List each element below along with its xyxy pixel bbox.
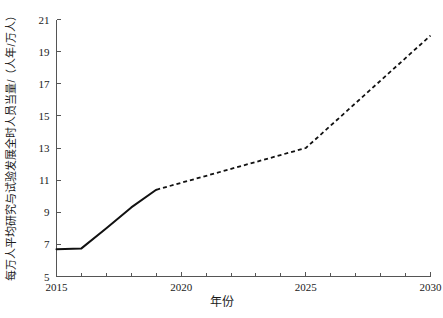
y-tick-label: 11 — [39, 174, 50, 186]
x-tick-label: 2025 — [295, 281, 318, 293]
y-tick-label: 19 — [39, 46, 51, 58]
x-tick-label: 2015 — [46, 281, 69, 293]
x-axis-title: 年份 — [0, 292, 443, 309]
x-axis-ticks: 2015202020252030 — [46, 272, 443, 293]
series-historical-line — [57, 190, 157, 249]
x-tick-label: 2030 — [420, 281, 443, 293]
y-tick-label: 21 — [39, 14, 50, 26]
chart-container: 每万人平均研究与试验发展全时人员当量/（人年/万人） 5791113151719… — [0, 0, 443, 318]
x-tick-label: 2020 — [170, 281, 193, 293]
y-axis-ticks: 579111315171921 — [39, 14, 61, 283]
y-tick-label: 13 — [39, 142, 51, 154]
y-tick-label: 9 — [44, 206, 50, 218]
y-tick-label: 7 — [44, 238, 50, 250]
series-projected-line — [156, 36, 430, 190]
chart-plot-area: 579111315171921 2015202020252030 — [0, 0, 443, 318]
y-tick-label: 17 — [39, 78, 51, 90]
y-tick-label: 15 — [39, 110, 51, 122]
x-axis-title-text: 年份 — [210, 295, 234, 309]
